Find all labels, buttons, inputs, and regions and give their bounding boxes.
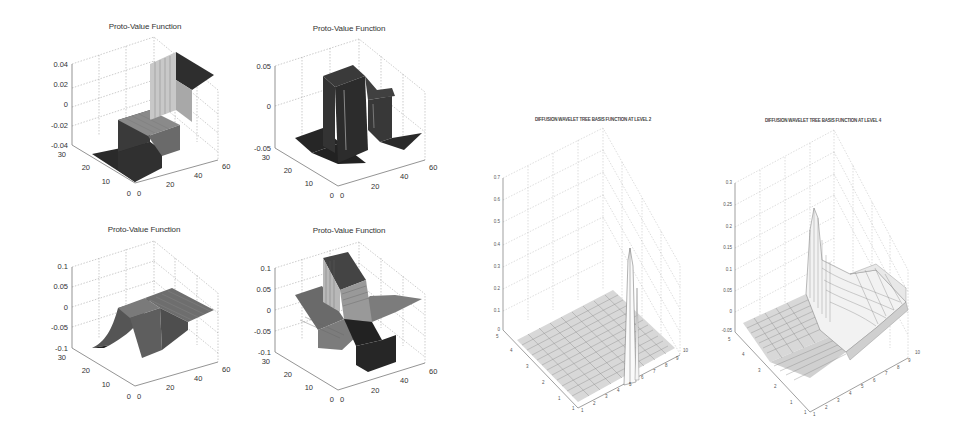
y-tick: 0 xyxy=(330,395,334,404)
pvf-plot-3: Proto-Value Function 0.1 0.05 0 -0.05 -0 xyxy=(0,200,240,436)
x-tick: 3 xyxy=(837,398,840,403)
x-tick: 0 xyxy=(137,392,141,401)
x-tick: 1 xyxy=(581,408,584,413)
x-tick: 6 xyxy=(641,375,644,380)
z-tick: 0.4 xyxy=(494,242,500,247)
y-tick: 10 xyxy=(102,380,110,389)
pvf-plot-4: Proto-Value Function 0.1 0. xyxy=(240,200,480,436)
x-tick: 1 xyxy=(804,410,807,415)
z-tick: -0.05 xyxy=(254,144,271,153)
z-tick: 0 xyxy=(497,327,500,332)
x-tick: 5 xyxy=(629,382,632,387)
y-tick: 30 xyxy=(262,153,270,162)
z-tick: 0.3 xyxy=(494,264,500,269)
y-tick: 1 xyxy=(790,400,793,405)
x-tick: 60 xyxy=(222,365,230,374)
surface-plot xyxy=(240,200,480,436)
x-tick: 8 xyxy=(665,363,668,368)
mesh-plot xyxy=(710,90,967,436)
z-tick: 0.05 xyxy=(723,288,732,293)
x-tick: 40 xyxy=(400,376,408,385)
y-tick: 10 xyxy=(305,383,313,392)
x-tick: 4 xyxy=(617,388,620,393)
x-tick: 20 xyxy=(166,383,174,392)
x-tick: 6 xyxy=(873,378,876,383)
y-tick: 2 xyxy=(774,384,777,389)
x-tick: 9 xyxy=(908,358,911,363)
dwt-plot-2: DIFFUSION WAVELET TREE BASIS FUNCTION AT… xyxy=(710,90,967,436)
x-tick: 60 xyxy=(429,163,437,172)
z-tick: -0.1 xyxy=(55,344,68,353)
x-tick: 8 xyxy=(897,365,900,370)
z-tick: 0 xyxy=(64,100,68,109)
x-tick: 9 xyxy=(676,356,679,361)
z-tick: 0.7 xyxy=(494,175,500,180)
x-tick: 40 xyxy=(400,172,408,181)
z-tick: 0.3 xyxy=(726,180,732,185)
z-tick: 0 xyxy=(64,303,68,312)
y-tick: 1 xyxy=(558,396,561,401)
y-tick: 4 xyxy=(742,352,745,357)
x-tick: 0 xyxy=(340,395,344,404)
z-tick: 0.15 xyxy=(723,245,732,250)
x-tick: 10 xyxy=(915,350,920,355)
x-tick: 1 xyxy=(813,412,816,417)
dwt-plot-1: DIFFUSION WAVELET TREE BASIS FUNCTION AT… xyxy=(480,90,720,436)
y-tick: 30 xyxy=(58,150,66,159)
y-tick: 3 xyxy=(758,368,761,373)
z-tick: 0.02 xyxy=(53,80,68,89)
x-tick: 40 xyxy=(194,171,202,180)
x-tick: 10 xyxy=(683,348,688,353)
z-tick: -0.05 xyxy=(722,328,732,333)
x-tick: 60 xyxy=(222,162,230,171)
x-tick: 2 xyxy=(825,405,828,410)
z-tick: 0.1 xyxy=(494,308,500,313)
z-tick: 0.1 xyxy=(58,262,68,271)
y-tick: 20 xyxy=(284,370,292,379)
x-tick: 4 xyxy=(849,391,852,396)
z-tick: 0.25 xyxy=(723,202,732,207)
surface-plot xyxy=(0,200,240,436)
z-tick: 0 xyxy=(267,102,271,111)
y-tick: 30 xyxy=(58,353,66,362)
y-tick: 5 xyxy=(496,334,499,339)
z-tick: 0.6 xyxy=(494,197,500,202)
z-tick: -0.05 xyxy=(51,323,68,332)
x-tick: 3 xyxy=(605,394,608,399)
y-tick: 0 xyxy=(127,189,131,198)
x-tick: 7 xyxy=(653,369,656,374)
x-tick: 0 xyxy=(137,189,141,198)
z-tick: 0.1 xyxy=(261,264,271,273)
y-tick: 30 xyxy=(262,357,270,366)
z-tick: -0.04 xyxy=(51,141,68,150)
x-tick: 40 xyxy=(194,374,202,383)
z-tick: -0.02 xyxy=(51,121,68,130)
z-tick: -0.1 xyxy=(258,348,271,357)
x-tick: 7 xyxy=(885,371,888,376)
y-tick: 20 xyxy=(284,166,292,175)
x-tick: 60 xyxy=(429,367,437,376)
mesh-plot xyxy=(480,90,720,436)
pvf-plot-1: Proto-Value Function xyxy=(0,0,240,210)
y-tick: 10 xyxy=(305,179,313,188)
y-tick: 20 xyxy=(82,163,90,172)
y-tick: 5 xyxy=(728,337,731,342)
y-tick: 10 xyxy=(102,177,110,186)
z-tick: 0.1 xyxy=(726,267,732,272)
x-tick: 0 xyxy=(340,191,344,200)
y-tick: 0 xyxy=(330,191,334,200)
y-tick: 4 xyxy=(510,348,513,353)
z-tick: -0.05 xyxy=(254,327,271,336)
x-tick: 20 xyxy=(166,180,174,189)
z-tick: 0.05 xyxy=(53,282,68,291)
x-tick: 20 xyxy=(371,182,379,191)
x-tick: 1 xyxy=(572,406,575,411)
z-tick: 0.05 xyxy=(256,285,271,294)
y-tick: 2 xyxy=(542,380,545,385)
z-tick: 0.2 xyxy=(726,224,732,229)
z-tick: 0.5 xyxy=(494,219,500,224)
z-tick: 0.2 xyxy=(494,286,500,291)
surface-plot xyxy=(0,0,240,210)
z-tick: 0.04 xyxy=(53,60,68,69)
surface-plot xyxy=(240,0,480,210)
